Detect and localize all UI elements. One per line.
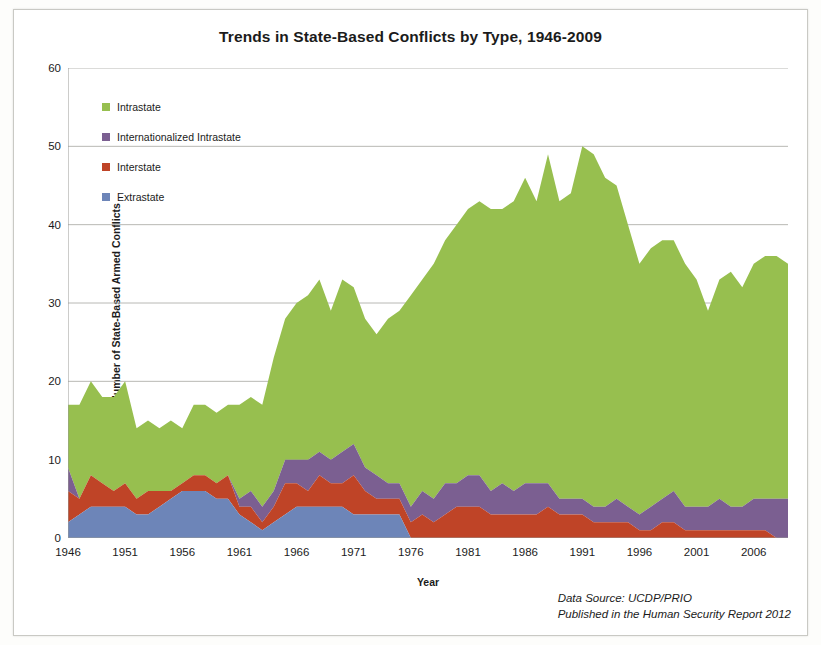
- x-tick-label: 2001: [684, 546, 710, 558]
- y-tick-label: 0: [55, 532, 61, 544]
- x-tick-label: 1961: [227, 546, 253, 558]
- y-tick-label: 10: [48, 454, 61, 466]
- chart-page: Trends in State-Based Conflicts by Type,…: [0, 0, 821, 645]
- y-tick-label: 60: [48, 62, 61, 74]
- x-tick-label: 1966: [284, 546, 310, 558]
- x-tick-label: 1986: [512, 546, 538, 558]
- x-axis-label: Year: [68, 576, 788, 588]
- x-tick-label: 1956: [169, 546, 195, 558]
- legend-item-extrastate[interactable]: Extrastate: [102, 182, 342, 212]
- legend-swatch-icon: [102, 193, 110, 201]
- y-tick-label: 30: [48, 297, 61, 309]
- legend-item-label: Intrastate: [117, 101, 161, 113]
- legend-item-label: Extrastate: [117, 191, 164, 203]
- x-tick-label: 1976: [398, 546, 424, 558]
- legend-swatch-icon: [102, 163, 110, 171]
- source-note: Data Source: UCDP/PRIO Published in the …: [558, 590, 791, 623]
- y-tick-label: 50: [48, 140, 61, 152]
- legend-item-interstate[interactable]: Interstate: [102, 152, 342, 182]
- x-tick-label: 1996: [627, 546, 653, 558]
- legend-swatch-icon: [102, 103, 110, 111]
- chart-legend: IntrastateInternationalized IntrastateIn…: [102, 92, 342, 212]
- x-tick-label: 1991: [569, 546, 595, 558]
- legend-item-label: Interstate: [117, 161, 161, 173]
- legend-item-intrastate[interactable]: Intrastate: [102, 92, 342, 122]
- legend-item-internationalized-intrastate[interactable]: Internationalized Intrastate: [102, 122, 342, 152]
- x-tick-label: 1981: [455, 546, 481, 558]
- y-tick-label: 20: [48, 375, 61, 387]
- x-tick-label: 1971: [341, 546, 367, 558]
- chart-title: Trends in State-Based Conflicts by Type,…: [0, 28, 821, 46]
- x-tick-label: 1946: [55, 546, 81, 558]
- source-line-2: Published in the Human Security Report 2…: [558, 606, 791, 623]
- x-tick-label: 1951: [112, 546, 138, 558]
- x-tick-label: 2006: [741, 546, 767, 558]
- legend-swatch-icon: [102, 133, 110, 141]
- y-tick-label: 40: [48, 219, 61, 231]
- source-line-1: Data Source: UCDP/PRIO: [558, 590, 791, 607]
- legend-item-label: Internationalized Intrastate: [117, 131, 241, 143]
